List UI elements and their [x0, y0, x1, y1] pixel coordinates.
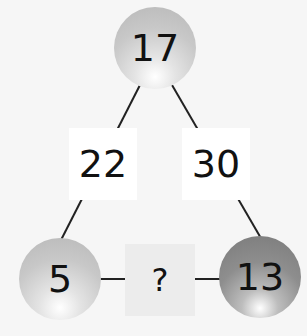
right-node: 13	[219, 236, 301, 318]
top-node-value: 17	[131, 26, 179, 70]
left-node: 5	[19, 238, 101, 320]
unknown-edge-label: ?	[125, 244, 195, 316]
unknown-value: ?	[152, 261, 169, 299]
left-edge-label: 22	[69, 128, 137, 200]
top-node: 17	[114, 7, 196, 89]
left-edge-value: 22	[79, 142, 127, 186]
right-edge-value: 30	[192, 142, 240, 186]
right-node-value: 13	[236, 255, 284, 299]
right-edge-label: 30	[182, 128, 250, 200]
left-node-value: 5	[48, 257, 72, 301]
